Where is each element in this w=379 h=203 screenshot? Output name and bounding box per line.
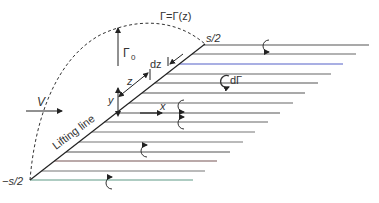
half-span-positive-label: s/2 xyxy=(206,32,221,44)
vortex-icon xyxy=(141,145,147,157)
vortex-icon xyxy=(106,177,112,189)
gamma0-label: Γ xyxy=(123,46,130,60)
y-axis-label: y xyxy=(107,94,115,106)
freestream-label: V xyxy=(37,95,46,109)
vortex-symbols xyxy=(106,40,269,189)
vortex-icon xyxy=(178,117,184,129)
vortex-icon xyxy=(263,40,269,52)
dz-label: dz xyxy=(150,58,162,70)
gamma-distribution-label: Γ=Γ(z) xyxy=(160,10,191,22)
vortex-icon xyxy=(178,100,184,112)
trailing-vortex-lines xyxy=(30,45,369,180)
lifting-line-diagram: Γ 0 Γ=Γ(z) s/2 −s/2 Lifting line V y z d… xyxy=(0,0,379,203)
gamma0-subscript: 0 xyxy=(131,53,136,62)
x-axis-label: x xyxy=(159,100,166,112)
dgamma-label: dΓ xyxy=(230,74,242,86)
half-span-negative-label: −s/2 xyxy=(2,175,23,187)
z-axis-label: z xyxy=(126,75,133,87)
vortex-icon xyxy=(221,76,229,88)
